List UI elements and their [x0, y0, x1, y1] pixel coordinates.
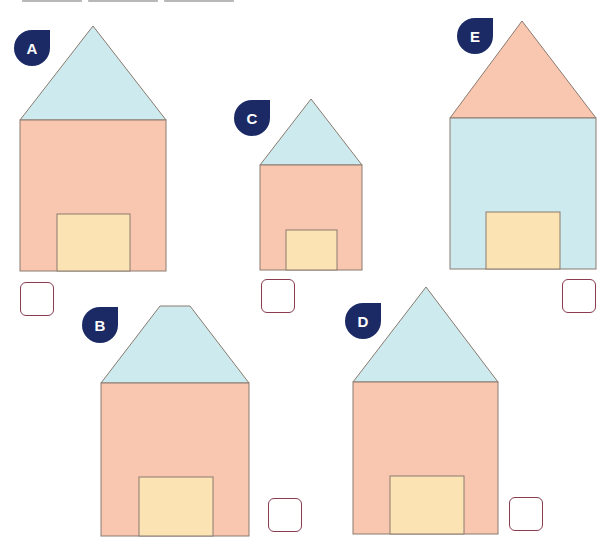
house-d-door [390, 476, 464, 534]
house-c-roof [260, 99, 362, 165]
checkbox-house-e[interactable] [562, 279, 596, 313]
houses-illustration [0, 0, 608, 547]
checkbox-house-a[interactable] [20, 282, 54, 316]
badge-a: A [14, 30, 50, 66]
checkbox-house-d[interactable] [509, 497, 543, 531]
house-a-door [57, 214, 130, 271]
checkbox-house-c[interactable] [261, 279, 295, 313]
badge-d: D [345, 303, 381, 339]
badge-e: E [457, 18, 493, 54]
house-e [450, 21, 596, 269]
house-e-door [486, 212, 560, 269]
house-b-door [139, 477, 213, 536]
badge-b: B [82, 307, 118, 343]
house-c-door [286, 230, 337, 270]
house-b [101, 306, 249, 536]
house-c [260, 99, 362, 270]
house-b-roof [101, 306, 249, 383]
checkbox-house-b[interactable] [268, 498, 302, 532]
badge-c: C [234, 100, 270, 136]
